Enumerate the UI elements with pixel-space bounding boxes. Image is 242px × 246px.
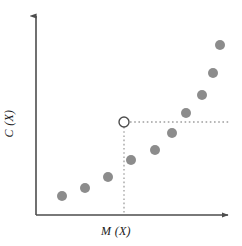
axes-group (36, 16, 228, 215)
threshold-point-group (119, 117, 129, 127)
threshold-point (119, 117, 129, 127)
data-point (103, 172, 113, 182)
data-point-group (57, 40, 225, 201)
plot-canvas (0, 0, 242, 246)
x-axis-label: M (X) (0, 224, 242, 239)
x-axis-label-text: M (X) (101, 224, 131, 238)
data-point (150, 145, 160, 155)
data-point (57, 191, 67, 201)
scatter-plot-figure: C (X) M (X) (0, 0, 242, 246)
data-point (215, 40, 225, 50)
guide-lines-group (124, 122, 230, 215)
data-point (208, 68, 218, 78)
data-point (80, 183, 90, 193)
data-point (181, 108, 191, 118)
y-axis-label-text: C (X) (3, 109, 18, 137)
y-axis-label: C (X) (0, 0, 20, 246)
data-point (167, 128, 177, 138)
data-point (126, 155, 136, 165)
data-point (197, 90, 207, 100)
